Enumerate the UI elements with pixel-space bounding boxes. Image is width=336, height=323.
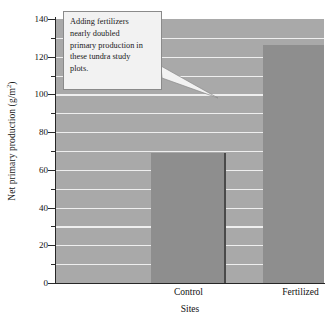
annotation-line: nearly doubled <box>70 28 157 40</box>
y-axis-tick-label: 0 <box>20 279 48 288</box>
annotation-callout: Adding fertilizersnearly doubledprimary … <box>63 11 162 90</box>
y-axis-tick-label: 60 <box>20 165 48 174</box>
y-axis-tick-label: 20 <box>20 241 48 250</box>
y-axis-title-suffix: ) <box>7 82 17 85</box>
x-axis-title: Sites <box>56 304 324 314</box>
bar-fertilized <box>263 45 324 283</box>
y-axis-title-exponent: 2 <box>5 85 12 88</box>
annotation-line: these tundra study <box>70 51 157 63</box>
y-axis-title: Net primary production (g/m2) <box>5 82 17 201</box>
bar-chart-figure: Net primary production (g/m2) 0204060801… <box>0 0 336 323</box>
y-axis-tick-label: 120 <box>20 52 48 61</box>
y-axis-tick-labels: 020406080100120140 <box>20 19 48 283</box>
x-axis-category-label: Control <box>144 287 234 297</box>
bar-control <box>151 153 226 283</box>
x-axis-category-label: Fertilized <box>256 287 336 297</box>
annotation-line: primary production in <box>70 40 157 52</box>
y-axis-tick-label: 100 <box>20 90 48 99</box>
y-axis-title-prefix: Net primary production (g/m <box>7 88 17 201</box>
y-axis-tick-label: 140 <box>20 15 48 24</box>
annotation-line: Adding fertilizers <box>70 16 157 28</box>
y-axis-tick-label: 40 <box>20 203 48 212</box>
annotation-line: plots. <box>70 63 157 75</box>
y-axis-tick-label: 80 <box>20 128 48 137</box>
x-axis-line <box>55 283 325 284</box>
y-axis-title-container: Net primary production (g/m2) <box>0 0 22 283</box>
